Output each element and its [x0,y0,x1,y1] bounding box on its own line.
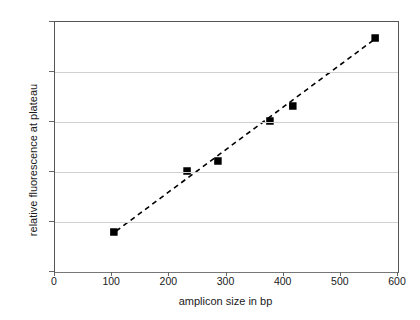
y-tick-mark [49,221,54,222]
data-point-marker [110,228,118,236]
x-tick-label: 100 [88,276,134,287]
y-axis-title: relative fluorescence at plateau [27,45,39,275]
gridline-horizontal [55,72,398,73]
data-series-layer [55,22,398,272]
y-tick-mark [49,71,54,72]
gridline-horizontal [55,222,398,223]
y-tick-mark [49,21,54,22]
x-tick-mark [168,272,169,276]
x-tick-mark [226,272,227,276]
data-point-marker [371,34,379,42]
x-tick-label: 400 [260,276,306,287]
gridline-horizontal [55,172,398,173]
gridline-horizontal [55,122,398,123]
plot-area [54,21,399,273]
y-tick-mark [49,121,54,122]
x-tick-mark [340,272,341,276]
x-tick-mark [54,272,55,276]
data-point-marker [183,167,191,175]
data-point-marker [214,157,222,165]
x-axis-title: amplicon size in bp [54,295,397,307]
x-tick-mark [283,272,284,276]
data-point-marker [289,102,297,110]
x-tick-label: 300 [203,276,249,287]
x-tick-label: 500 [317,276,363,287]
x-tick-label: 200 [145,276,191,287]
x-tick-mark [111,272,112,276]
trendline [116,38,376,231]
scatter-chart: relative fluorescence at plateau amplico… [0,0,420,320]
x-tick-label: 600 [374,276,420,287]
x-tick-label: 0 [31,276,77,287]
y-tick-mark [49,171,54,172]
x-tick-mark [397,272,398,276]
data-point-marker [266,117,274,125]
